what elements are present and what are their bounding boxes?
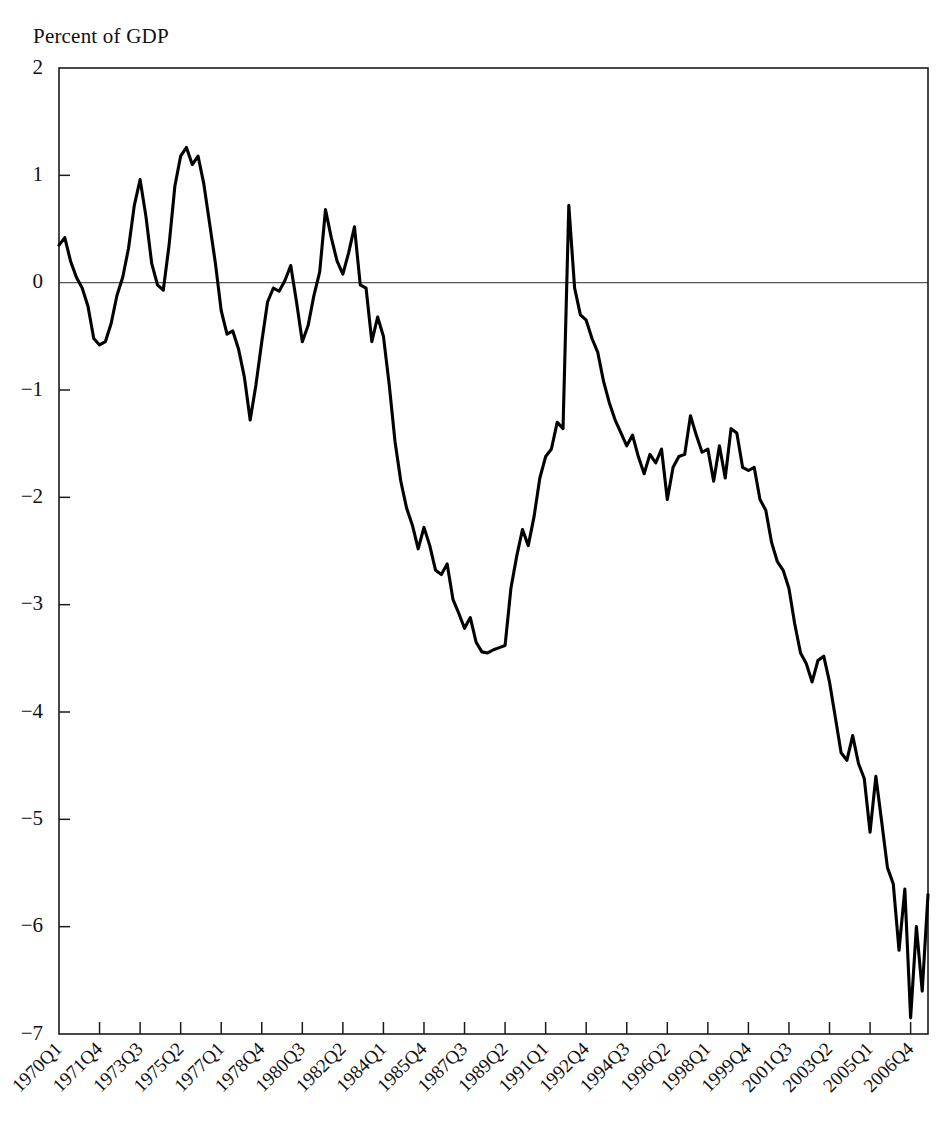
- y-axis-tick-label: −6: [21, 913, 43, 937]
- y-axis-tick-label: −4: [21, 699, 44, 723]
- plot-frame: [59, 68, 928, 1034]
- y-axis-tick-label: −7: [21, 1021, 43, 1045]
- y-axis-tick-labels: 210−1−2−3−4−5−6−7: [21, 55, 44, 1045]
- line-chart: 210−1−2−3−4−5−6−7 1970Q11971Q41973Q31975…: [0, 0, 947, 1132]
- y-axis-tick-label: −5: [21, 806, 43, 830]
- y-axis-tick-marks: [59, 175, 70, 926]
- data-series-line: [59, 147, 928, 1017]
- y-axis-tick-label: −3: [21, 591, 43, 615]
- y-axis-tick-label: 0: [33, 269, 44, 293]
- chart-page: Percent of GDP 210−1−2−3−4−5−6−7 1970Q11…: [0, 0, 947, 1132]
- x-axis-tick-labels: 1970Q11971Q41973Q31975Q21977Q11978Q41980…: [8, 1038, 918, 1096]
- x-axis-tick-marks: [100, 1022, 911, 1034]
- y-axis-tick-label: −2: [21, 484, 43, 508]
- y-axis-tick-label: 2: [33, 55, 44, 79]
- y-axis-tick-label: −1: [21, 377, 43, 401]
- y-axis-tick-label: 1: [33, 162, 44, 186]
